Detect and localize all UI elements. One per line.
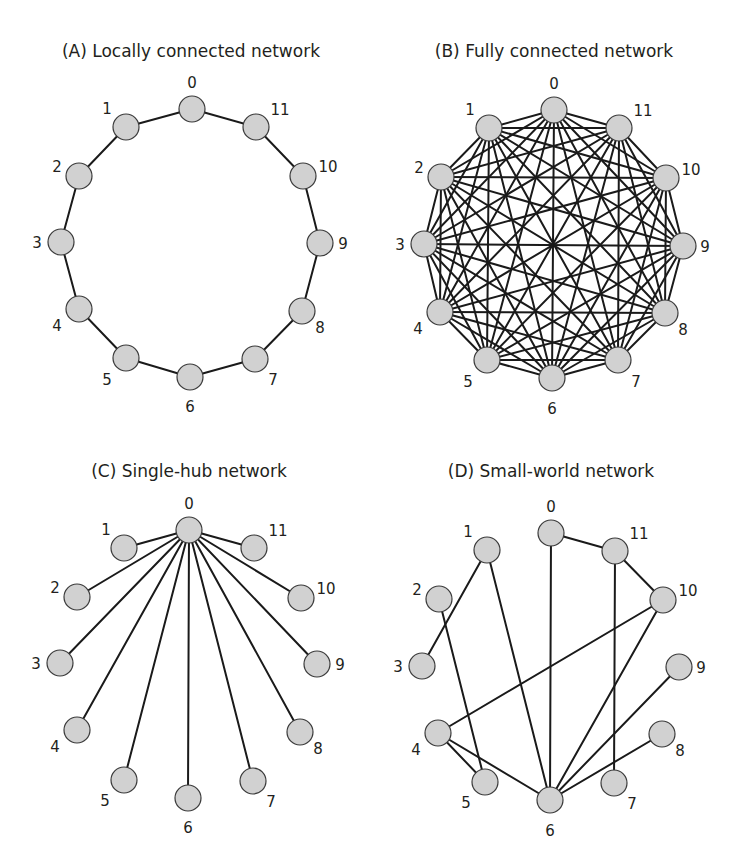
panel-b-node-label-11: 11 <box>633 102 652 120</box>
panel-a-node-label-11: 11 <box>270 101 289 119</box>
panel-a-node-label-7: 7 <box>268 371 278 389</box>
panel-b-node-7 <box>605 347 631 373</box>
panel-b-node-label-7: 7 <box>631 373 641 391</box>
edge-2-5 <box>439 599 485 782</box>
edge-0-5 <box>124 530 189 780</box>
panel-c-node-label-8: 8 <box>313 740 323 758</box>
panel-c-node-11 <box>241 535 267 561</box>
panel-a-node-label-9: 9 <box>338 235 348 253</box>
panel-a-edges <box>61 109 320 377</box>
panel-a-node-label-2: 2 <box>52 158 62 176</box>
edge-11-7 <box>614 551 615 783</box>
panel-d-node-7 <box>601 770 627 796</box>
panel-a-node-label-1: 1 <box>102 100 112 118</box>
panel-a-node-0 <box>179 96 205 122</box>
panel-b-node-label-10: 10 <box>681 161 700 179</box>
panel-c-node-label-11: 11 <box>268 522 287 540</box>
panel-a-node-label-8: 8 <box>315 319 325 337</box>
panel-a-node-8 <box>289 298 315 324</box>
network-figure: (A) Locally connected network 0123456789… <box>0 0 734 866</box>
panel-a-node-label-6: 6 <box>185 398 195 416</box>
panel-d-node-11 <box>602 538 628 564</box>
edge-1-6 <box>487 550 550 800</box>
panel-b-node-3 <box>411 231 437 257</box>
panel-d-node-label-10: 10 <box>678 582 697 600</box>
panel-a-node-label-10: 10 <box>318 158 337 176</box>
panel-c-node-5 <box>111 767 137 793</box>
panel-a-node-7 <box>242 346 268 372</box>
panel-c: (C) Single-hub network 01234567891011 <box>31 461 345 837</box>
panel-d-node-label-5: 5 <box>461 794 471 812</box>
panel-c-title: (C) Single-hub network <box>91 461 287 481</box>
panel-c-node-label-3: 3 <box>31 655 41 673</box>
panel-d-node-6 <box>537 787 563 813</box>
panel-c-node-10 <box>288 585 314 611</box>
panel-d-node-9 <box>666 654 692 680</box>
panel-a: (A) Locally connected network 0123456789… <box>32 41 348 416</box>
panel-b-node-9 <box>670 233 696 259</box>
panel-a-title: (A) Locally connected network <box>62 41 320 61</box>
panel-b-title: (B) Fully connected network <box>435 41 673 61</box>
panel-c-node-label-7: 7 <box>266 793 276 811</box>
panel-c-node-1 <box>111 535 137 561</box>
panel-d-node-8 <box>649 721 675 747</box>
panel-b-node-5 <box>474 347 500 373</box>
panel-d-node-label-3: 3 <box>393 658 403 676</box>
panel-c-node-8 <box>287 719 313 745</box>
panel-b-node-1 <box>476 115 502 141</box>
panel-d-node-label-2: 2 <box>412 581 422 599</box>
panel-b-node-label-3: 3 <box>395 236 405 254</box>
edge-0-8 <box>189 530 300 732</box>
panel-b-node-2 <box>428 164 454 190</box>
edge-7-11 <box>618 128 619 360</box>
panel-b-node-label-4: 4 <box>413 320 423 338</box>
panel-b-node-4 <box>427 299 453 325</box>
panel-a-node-9 <box>307 230 333 256</box>
panel-d-node-label-1: 1 <box>463 523 473 541</box>
panel-d-node-label-11: 11 <box>629 525 648 543</box>
panel-b-node-6 <box>539 365 565 391</box>
panel-d-node-10 <box>650 587 676 613</box>
panel-d-node-label-4: 4 <box>411 741 421 759</box>
panel-a-node-6 <box>177 364 203 390</box>
panel-c-node-label-4: 4 <box>50 738 60 756</box>
panel-d-node-4 <box>425 720 451 746</box>
panel-b: (B) Fully connected network 012345678910… <box>395 41 710 418</box>
panel-b-node-label-2: 2 <box>414 159 424 177</box>
panel-b-node-11 <box>606 115 632 141</box>
panel-a-node-4 <box>66 296 92 322</box>
panel-c-node-2 <box>64 584 90 610</box>
panel-a-node-label-5: 5 <box>102 371 112 389</box>
panel-a-node-10 <box>290 163 316 189</box>
panel-b-node-label-8: 8 <box>678 321 688 339</box>
edge-6-10 <box>552 178 666 378</box>
panel-d-node-label-8: 8 <box>675 742 685 760</box>
panel-a-node-label-4: 4 <box>52 317 62 335</box>
panel-c-node-4 <box>64 717 90 743</box>
panel-b-node-label-5: 5 <box>463 373 473 391</box>
panel-a-node-label-0: 0 <box>187 74 197 92</box>
panel-d-node-1 <box>474 537 500 563</box>
panel-c-node-0 <box>176 517 202 543</box>
panel-b-node-label-6: 6 <box>547 400 557 418</box>
panel-d-node-5 <box>472 769 498 795</box>
panel-c-node-label-10: 10 <box>316 580 335 598</box>
panel-a-node-2 <box>66 163 92 189</box>
panel-d-edges <box>422 533 679 800</box>
panel-a-nodes: 01234567891011 <box>32 74 348 416</box>
edge-0-4 <box>77 530 189 730</box>
panel-c-node-9 <box>304 651 330 677</box>
panel-c-node-label-6: 6 <box>183 819 193 837</box>
panel-d-node-label-7: 7 <box>627 795 637 813</box>
panel-d-node-label-6: 6 <box>545 822 555 840</box>
panel-b-node-10 <box>653 165 679 191</box>
panel-d-node-3 <box>409 653 435 679</box>
panel-d: (D) Small-world network 01234567891011 <box>393 461 706 840</box>
panel-b-node-label-9: 9 <box>700 238 710 256</box>
panel-b-node-0 <box>541 97 567 123</box>
panel-b-node-label-0: 0 <box>549 75 559 93</box>
panel-c-node-6 <box>175 785 201 811</box>
edge-8-10 <box>665 178 666 313</box>
panel-c-node-label-1: 1 <box>101 521 111 539</box>
panel-c-node-label-9: 9 <box>335 656 345 674</box>
